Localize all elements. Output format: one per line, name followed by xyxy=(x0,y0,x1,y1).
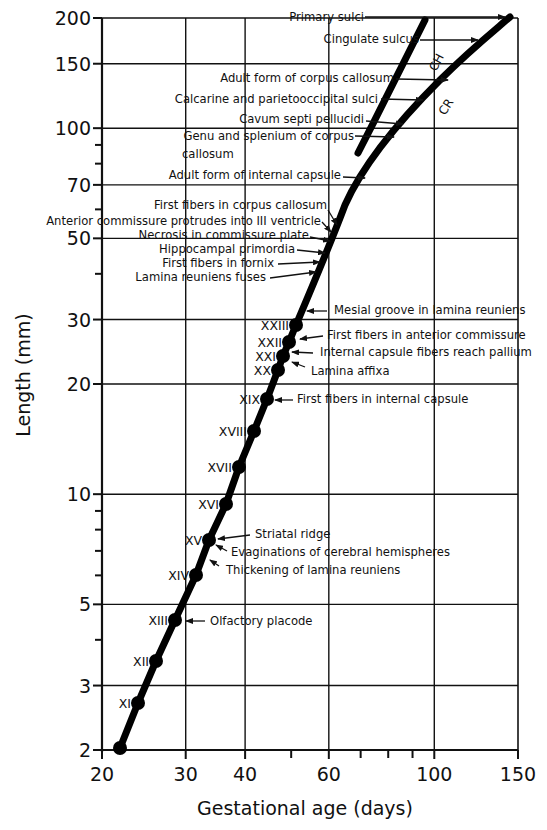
annotation-arrow xyxy=(270,272,316,278)
stage-dot xyxy=(289,318,303,332)
annotation-arrow xyxy=(292,352,313,353)
y-tick-label: 20 xyxy=(67,373,91,395)
stage-dot xyxy=(202,533,216,547)
stage-label: XIV xyxy=(168,568,189,583)
stage-dot xyxy=(271,363,285,377)
annotation-label: Calcarine and parietooccipital sulci xyxy=(175,92,378,106)
annotation-label: Cingulate sulcus xyxy=(324,32,419,46)
annotation-arrow xyxy=(292,362,305,367)
y-tick-label: 50 xyxy=(67,227,91,249)
figure-caption-cropped xyxy=(10,822,537,830)
stage-label: XXI xyxy=(255,349,276,364)
stage-dot xyxy=(131,696,145,710)
annotation-arrow xyxy=(322,222,331,232)
x-tick-label: 40 xyxy=(233,763,257,785)
x-tick-label: 100 xyxy=(416,763,452,785)
growth-chart: 2001501007050302010532 20304060100150 XI… xyxy=(0,0,547,830)
stage-label: XXIII xyxy=(261,318,289,333)
y-tick-label: 2 xyxy=(79,739,91,761)
annotation-label: Anterior commissure protrudes into III v… xyxy=(46,214,321,228)
y-axis-ticks: 2001501007050302010532 xyxy=(55,7,102,761)
annotation-label: Olfactory placode xyxy=(210,614,313,628)
x-tick-label: 60 xyxy=(317,763,341,785)
stage-dot xyxy=(260,392,274,406)
stage-dot xyxy=(168,613,182,627)
annotation-arrow xyxy=(216,545,227,551)
stage-dot xyxy=(189,568,203,582)
annotation-label: Internal capsule fibers reach pallium xyxy=(320,345,532,359)
growth-curves xyxy=(120,17,510,748)
annotation-label: Adult form of internal capsule xyxy=(169,168,341,182)
annotation-label: First fibers in internal capsule xyxy=(297,392,468,406)
annotation-label: Primary sulci xyxy=(289,10,364,24)
annotation-label: Lamina affixa xyxy=(311,364,390,378)
x-tick-label: 20 xyxy=(90,763,114,785)
annotation-label: Hippocampal primordia xyxy=(159,242,295,256)
cr-curve-label: CR xyxy=(436,96,457,118)
stage-dot xyxy=(282,335,296,349)
x-axis-ticks: 20304060100150 xyxy=(90,750,536,785)
stage-label: XX xyxy=(254,363,272,378)
annotation-label: callosum xyxy=(182,147,234,161)
stage-label: XIX xyxy=(239,392,260,407)
stage-label: XVI xyxy=(198,497,219,512)
annotation-label: First fibers in anterior commissure xyxy=(327,328,526,342)
annotation-label: Thickening of lamina reuniens xyxy=(225,563,400,577)
annotation-label: Cavum septi pellucidi xyxy=(239,112,364,126)
stage-label: XIII xyxy=(148,613,168,628)
stage-label: XII xyxy=(133,654,149,669)
x-tick-label: 30 xyxy=(174,763,198,785)
y-axis-title: Length (mm) xyxy=(12,313,34,436)
ch-curve-label: CH xyxy=(426,51,447,73)
y-tick-label: 10 xyxy=(67,483,91,505)
annotation-arrow xyxy=(210,560,219,566)
y-tick-label: 5 xyxy=(79,593,91,615)
annotation-label: Mesial groove in lamina reuniens xyxy=(334,303,525,317)
stage-label: XI xyxy=(119,696,131,711)
annotation-label: First fibers in corpus callosum xyxy=(154,198,327,212)
annotation-label: Lamina reuniens fuses xyxy=(135,270,266,284)
y-tick-label: 150 xyxy=(55,53,91,75)
x-axis-title: Gestational age (days) xyxy=(197,797,413,819)
y-tick-label: 3 xyxy=(79,675,91,697)
y-tick-label: 100 xyxy=(55,117,91,139)
y-tick-label: 200 xyxy=(55,7,91,29)
annotation-arrow xyxy=(297,250,325,253)
stage-dot xyxy=(276,349,290,363)
annotation-label: Striatal ridge xyxy=(255,527,330,541)
stage-dot xyxy=(113,741,127,755)
y-tick-label: 30 xyxy=(67,309,91,331)
stage-label: XVIII xyxy=(219,424,247,439)
annotation-label: Evaginations of cerebral hemispheres xyxy=(231,545,450,559)
stage-dot xyxy=(232,460,246,474)
annotation-label: Necrosis in commissure plate xyxy=(139,228,309,242)
annotation-label: Adult form of corpus callosum xyxy=(220,71,394,85)
y-tick-label: 70 xyxy=(67,174,91,196)
stage-dot xyxy=(219,497,233,511)
x-tick-label: 150 xyxy=(500,763,536,785)
stage-label: XXII xyxy=(258,335,283,350)
annotation-label: First fibers in fornix xyxy=(162,256,274,270)
stage-dot xyxy=(247,424,261,438)
annotation-label: Genu and splenium of corpus xyxy=(184,129,355,143)
annotation-arrow xyxy=(278,262,320,264)
cr-curve xyxy=(120,17,510,748)
annotation-arrow xyxy=(300,336,323,339)
stage-label: XV xyxy=(185,533,203,548)
stage-dot xyxy=(149,654,163,668)
stage-label: XVII xyxy=(208,460,233,475)
